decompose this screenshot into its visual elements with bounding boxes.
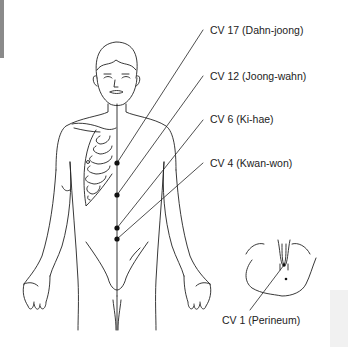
- label-cv12: CV 12 (Joong-wahn): [210, 70, 306, 82]
- label-cv6: CV 6 (Ki-hae): [210, 113, 274, 125]
- point-cv12: [114, 192, 119, 197]
- point-cv4: [114, 236, 119, 241]
- point-cv17: [114, 160, 119, 165]
- label-cv17: CV 17 (Dahn-joong): [210, 24, 303, 36]
- head: [93, 42, 140, 106]
- label-cv4: CV 4 (Kwan-won): [210, 157, 292, 169]
- point-cv6: [114, 225, 119, 230]
- label-cv1: CV 1 (Perineum): [222, 314, 300, 326]
- body-figure: [0, 0, 348, 347]
- perineum-inset: [246, 240, 316, 296]
